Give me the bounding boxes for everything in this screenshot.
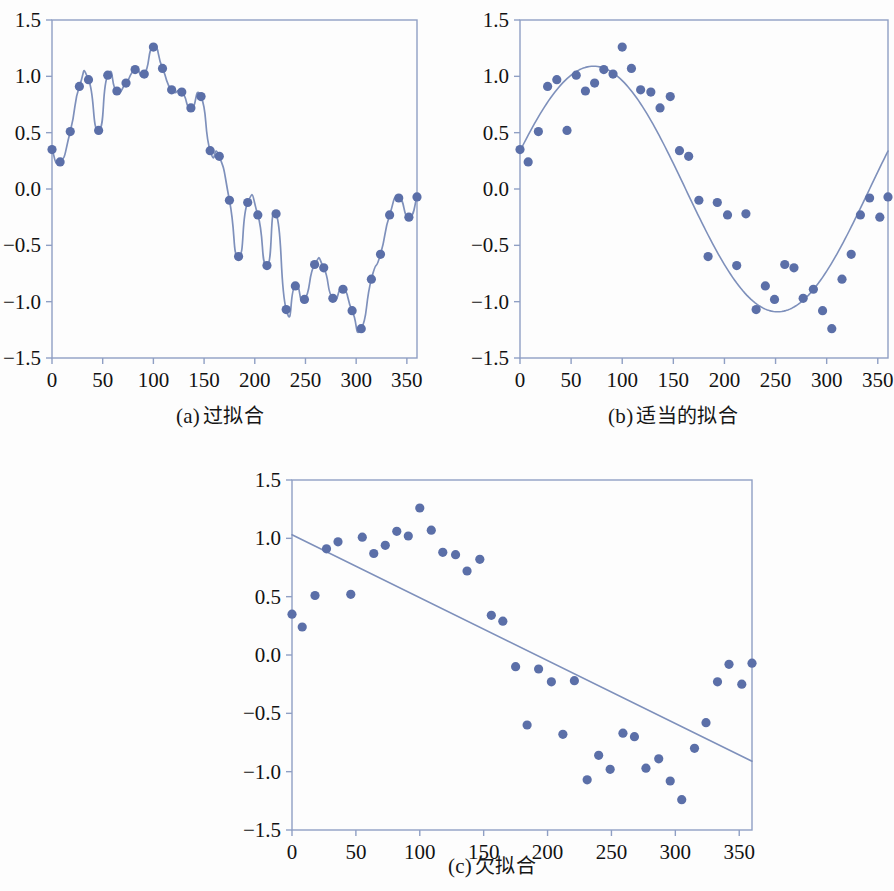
data-point xyxy=(761,281,770,290)
plot-frame xyxy=(52,20,417,358)
data-point xyxy=(741,209,750,218)
data-point xyxy=(572,71,581,80)
y-tick-label: −1.0 xyxy=(3,290,41,314)
data-point xyxy=(694,196,703,205)
data-point xyxy=(581,86,590,95)
x-tick-label: 200 xyxy=(239,368,271,392)
x-tick-label: 100 xyxy=(606,368,638,392)
data-point xyxy=(84,75,93,84)
data-point xyxy=(827,324,836,333)
y-tick-label: −0.5 xyxy=(243,701,281,725)
data-point xyxy=(534,664,543,673)
data-point xyxy=(333,537,342,546)
panel-b: −1.5−1.0−0.50.00.51.01.50501001502002503… xyxy=(452,0,894,440)
data-point xyxy=(703,252,712,261)
data-point xyxy=(310,260,319,269)
data-point xyxy=(630,732,639,741)
data-point xyxy=(215,152,224,161)
data-point xyxy=(287,610,296,619)
data-point xyxy=(376,250,385,259)
data-point xyxy=(524,157,533,166)
data-point xyxy=(404,531,413,540)
data-point xyxy=(369,549,378,558)
fit-curve xyxy=(52,47,417,333)
data-point xyxy=(103,71,112,80)
data-point xyxy=(167,85,176,94)
data-point xyxy=(618,42,627,51)
y-tick-label: −1.0 xyxy=(243,760,281,784)
y-tick-label: 0.0 xyxy=(255,643,281,667)
data-point xyxy=(789,263,798,272)
y-tick-label: −0.5 xyxy=(471,233,509,257)
data-point xyxy=(253,210,262,219)
data-point xyxy=(298,622,307,631)
data-point xyxy=(385,210,394,219)
data-point xyxy=(206,146,215,155)
data-point xyxy=(427,526,436,535)
data-point xyxy=(300,295,309,304)
y-tick-label: 1.5 xyxy=(483,8,509,32)
data-point xyxy=(618,729,627,738)
data-point xyxy=(818,306,827,315)
data-point xyxy=(404,213,413,222)
data-point xyxy=(498,617,507,626)
data-point xyxy=(131,65,140,74)
data-point xyxy=(523,720,532,729)
data-point xyxy=(606,765,615,774)
data-point xyxy=(225,196,234,205)
data-point xyxy=(346,590,355,599)
x-tick-label: 150 xyxy=(658,368,690,392)
y-tick-label: −1.5 xyxy=(243,818,281,842)
data-point xyxy=(543,82,552,91)
data-point xyxy=(690,744,699,753)
data-point xyxy=(394,193,403,202)
x-tick-label: 300 xyxy=(340,368,372,392)
x-tick-label: 200 xyxy=(709,368,741,392)
panel-c-caption-text: 欠拟合 xyxy=(472,854,536,878)
data-point xyxy=(158,64,167,73)
y-tick-label: 0.0 xyxy=(483,177,509,201)
data-point xyxy=(747,659,756,668)
data-point xyxy=(140,69,149,78)
data-point xyxy=(608,69,617,78)
data-point xyxy=(47,145,56,154)
data-point xyxy=(196,92,205,101)
data-point xyxy=(487,611,496,620)
data-point xyxy=(66,127,75,136)
data-point xyxy=(534,127,543,136)
plot-frame xyxy=(292,480,752,830)
panel-a: −1.5−1.0−0.50.00.51.01.50501001502002503… xyxy=(0,0,440,440)
panel-c: −1.5−1.0−0.50.00.51.01.50501001502002503… xyxy=(212,452,772,891)
data-point xyxy=(723,210,732,219)
x-tick-label: 250 xyxy=(290,368,322,392)
y-tick-label: 0.5 xyxy=(483,121,509,145)
data-point xyxy=(677,795,686,804)
panel-b-caption-label: (b) xyxy=(608,404,633,428)
x-tick-label: 50 xyxy=(92,368,113,392)
y-tick-label: 0.5 xyxy=(255,585,281,609)
x-tick-label: 350 xyxy=(391,368,423,392)
data-point xyxy=(121,78,130,87)
data-point xyxy=(438,548,447,557)
panel-a-plot: −1.5−1.0−0.50.00.51.01.50501001502002503… xyxy=(0,0,440,400)
data-point xyxy=(75,82,84,91)
data-point xyxy=(847,250,856,259)
y-tick-label: 1.0 xyxy=(483,64,509,88)
data-point xyxy=(799,294,808,303)
data-point xyxy=(515,145,524,154)
data-point xyxy=(381,541,390,550)
data-point xyxy=(412,192,421,201)
fit-curve xyxy=(520,66,888,312)
panel-c-caption-label: (c) xyxy=(448,854,472,878)
data-point xyxy=(358,533,367,542)
y-tick-label: 1.5 xyxy=(255,468,281,492)
data-point xyxy=(56,157,65,166)
plot-frame xyxy=(520,20,888,358)
data-point xyxy=(348,306,357,315)
data-point xyxy=(666,92,675,101)
data-point xyxy=(809,285,818,294)
data-point xyxy=(713,677,722,686)
data-point xyxy=(475,555,484,564)
data-point xyxy=(547,677,556,686)
data-point xyxy=(562,126,571,135)
